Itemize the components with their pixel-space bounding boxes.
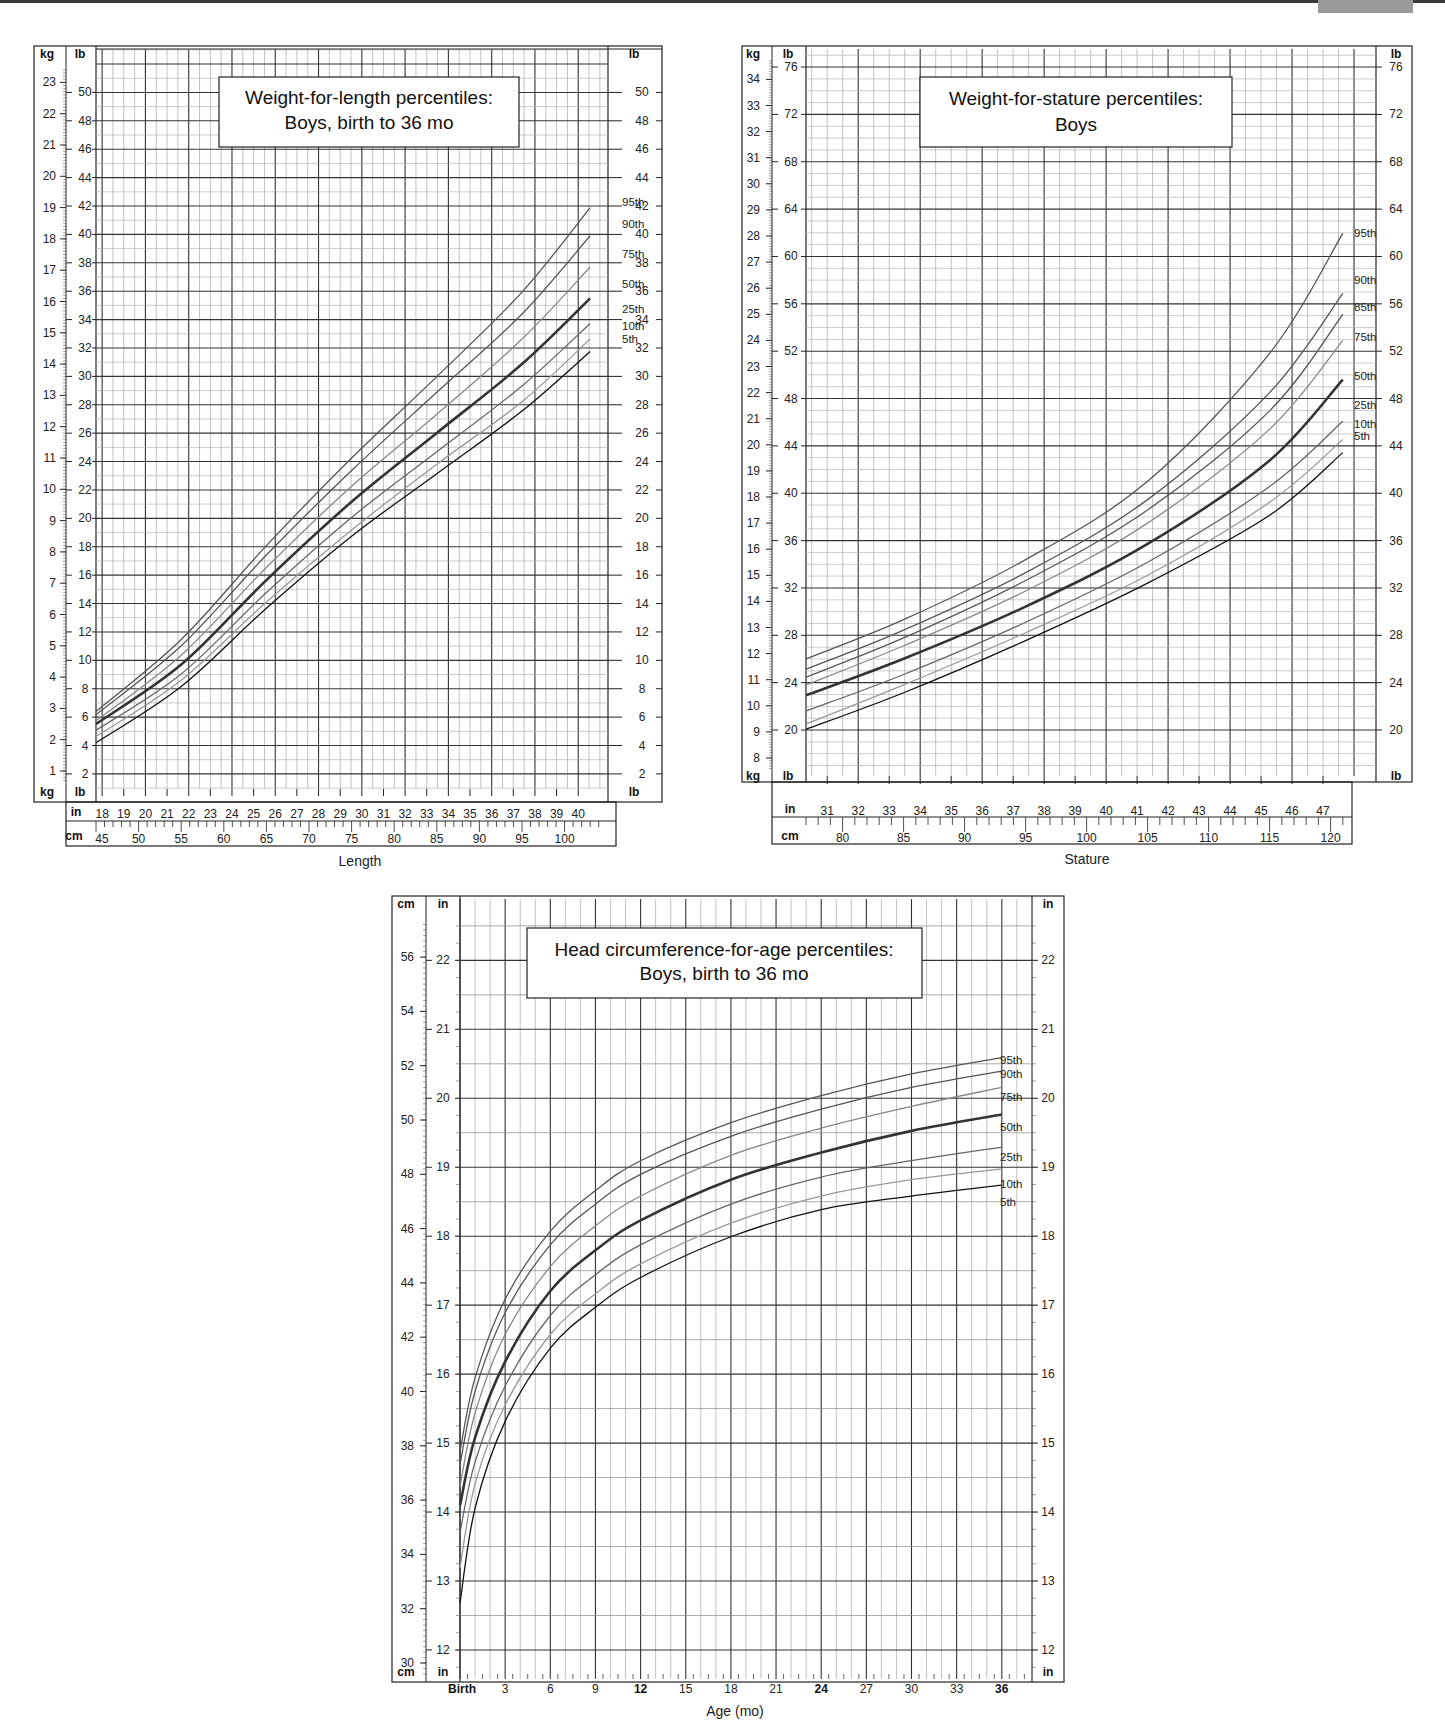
in-tick-label: 21	[160, 807, 174, 821]
in-unit-label: in	[71, 805, 82, 819]
in-unit-label-right-bottom: in	[1043, 1665, 1054, 1679]
cm-unit-label: cm	[781, 829, 798, 843]
kg-tick-label: 14	[43, 357, 57, 371]
legend-50th: 50th	[622, 278, 644, 290]
in-unit-label-right: in	[1043, 897, 1054, 911]
lb-tick-label: 48	[78, 114, 92, 128]
age-tick-label: 12	[634, 1682, 648, 1696]
kg-tick-label: 10	[747, 699, 761, 713]
in-tick-label: 34	[914, 804, 928, 818]
kg-unit-label-bottom: kg	[40, 785, 54, 799]
lb-tick-label-right: 32	[1389, 581, 1403, 595]
percentile-curve-75th	[96, 267, 590, 721]
in-tick-label: 38	[1037, 804, 1051, 818]
lb-unit-label-bottom: lb	[783, 769, 794, 783]
in-tick-label-right: 22	[1041, 953, 1055, 967]
kg-tick-label: 28	[747, 229, 761, 243]
kg-tick-label: 22	[43, 107, 57, 121]
in-tick-label-right: 19	[1041, 1160, 1055, 1174]
lb-tick-label-right: 20	[635, 511, 649, 525]
cm-tick-label: 120	[1321, 831, 1341, 845]
kg-tick-label: 11	[748, 673, 761, 687]
kg-tick-label: 13	[747, 621, 761, 635]
kg-tick-label: 9	[753, 725, 760, 739]
kg-tick-label: 12	[43, 420, 57, 434]
in-tick-label-right: 16	[1041, 1367, 1055, 1381]
kg-tick-label: 4	[49, 670, 56, 684]
kg-tick-label: 6	[49, 608, 56, 622]
age-tick-label: 9	[592, 1682, 599, 1696]
lb-tick-label: 44	[78, 171, 92, 185]
cm-tick-label: 46	[401, 1222, 415, 1236]
lb-tick-label: 50	[78, 85, 92, 99]
lb-tick-label-right: 28	[635, 398, 649, 412]
in-tick-label: 12	[436, 1643, 450, 1657]
in-tick-label: 33	[883, 804, 897, 818]
lb-tick-label: 4	[82, 739, 89, 753]
kg-tick-label: 15	[43, 326, 57, 340]
cm-unit-label: cm	[397, 897, 414, 911]
legend-90th: 90th	[1354, 274, 1376, 286]
kg-tick-label: 8	[753, 751, 760, 765]
lb-tick-label: 10	[78, 653, 92, 667]
age-tick-label: 15	[679, 1682, 693, 1696]
chart-weight-for-stature: 8910111213141516171819202122232425262728…	[742, 46, 1412, 867]
legend-25th: 25th	[622, 303, 644, 315]
lb-tick-label-right: 22	[635, 483, 649, 497]
lb-tick-label-right: 48	[1389, 392, 1403, 406]
cm-tick-label: 85	[897, 831, 911, 845]
in-tick-label: 20	[436, 1091, 450, 1105]
cm-tick-label: 85	[430, 832, 444, 846]
kg-tick-label: 10	[43, 482, 57, 496]
cm-tick-label: 50	[401, 1113, 415, 1127]
in-tick-label-right: 14	[1041, 1505, 1055, 1519]
cm-tick-label: 52	[401, 1059, 415, 1073]
kg-tick-label: 25	[747, 307, 761, 321]
lb-tick-label: 56	[784, 297, 798, 311]
lb-tick-label: 12	[78, 625, 92, 639]
cm-tick-label: 95	[515, 832, 529, 846]
lb-tick-label-right: 44	[1389, 439, 1403, 453]
kg-tick-label: 18	[747, 490, 761, 504]
age-tick-label: 21	[769, 1682, 783, 1696]
legend-10th: 10th	[1354, 418, 1376, 430]
cm-tick-label: 65	[260, 832, 274, 846]
chart-title-line1: Head circumference-for-age percentiles:	[555, 939, 894, 960]
legend-95th: 95th	[1000, 1054, 1022, 1066]
legend-85th: 85th	[1354, 301, 1376, 313]
in-tick-label: 37	[507, 807, 521, 821]
in-tick-label: 14	[436, 1505, 450, 1519]
in-tick-label: 39	[1068, 804, 1082, 818]
in-tick-label: 27	[290, 807, 304, 821]
lb-tick-label: 38	[78, 256, 92, 270]
lb-tick-label: 24	[78, 455, 92, 469]
lb-tick-label: 2	[82, 767, 89, 781]
kg-tick-label: 18	[43, 232, 57, 246]
cm-tick-label: 40	[401, 1385, 415, 1399]
cm-tick-label: 90	[958, 831, 972, 845]
lb-unit-label: lb	[783, 47, 794, 61]
kg-tick-label: 15	[747, 568, 761, 582]
legend-50th: 50th	[1354, 370, 1376, 382]
x-axis-title: Stature	[1064, 851, 1109, 867]
in-tick-label: 35	[463, 807, 477, 821]
percentile-curve-10th	[96, 339, 590, 737]
cm-tick-label: 105	[1138, 831, 1158, 845]
in-tick-label: 45	[1254, 804, 1268, 818]
cm-tick-label: 80	[836, 831, 850, 845]
kg-tick-label: 13	[43, 388, 57, 402]
in-tick-label: 21	[436, 1022, 450, 1036]
lb-tick-label: 46	[78, 142, 92, 156]
lb-tick-label: 18	[78, 540, 92, 554]
lb-tick-label: 20	[78, 511, 92, 525]
cm-tick-label: 56	[401, 950, 415, 964]
in-tick-label-right: 12	[1041, 1643, 1055, 1657]
lb-unit-label-right: lb	[1391, 47, 1402, 61]
in-tick-label-right: 15	[1041, 1436, 1055, 1450]
legend-90th: 90th	[622, 218, 644, 230]
percentile-curve-90th	[96, 236, 590, 715]
kg-tick-label: 5	[49, 639, 56, 653]
cm-tick-label: 50	[132, 832, 146, 846]
in-tick-label: 31	[377, 807, 391, 821]
legend-75th: 75th	[622, 248, 644, 260]
